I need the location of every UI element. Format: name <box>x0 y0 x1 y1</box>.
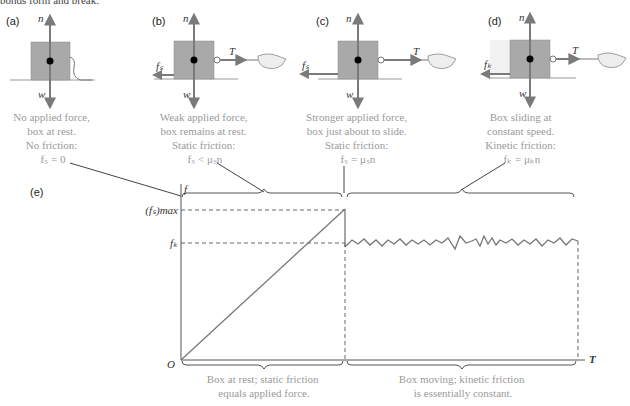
fk-tick-label: fₖ <box>170 237 178 249</box>
graph-e: (e) f T O (fₛ)max fₖ Box at re <box>30 163 597 399</box>
n-label: n <box>183 12 189 24</box>
hand-icon <box>598 53 626 68</box>
bottom-brace-static <box>182 361 343 369</box>
T-label: T <box>413 45 420 57</box>
bottom-brace-kinetic <box>347 361 576 369</box>
leader-a <box>70 163 181 196</box>
panel-d: (d) n w T fₖ Box sliding at constant spe… <box>482 11 626 165</box>
fs-label: fₛ <box>302 59 310 71</box>
n-label: n <box>38 12 44 24</box>
panel-b-label: (b) <box>152 15 165 27</box>
w-label: w <box>346 88 354 100</box>
T-label: T <box>229 45 236 57</box>
panel-b-caption: Weak applied force, box remains at rest.… <box>160 111 251 165</box>
panel-a: (a) n w No applied force, box at rest. N… <box>6 12 95 165</box>
panel-c-caption: Stronger applied force, box just about t… <box>306 111 410 165</box>
center-of-mass-dot <box>527 56 534 63</box>
top-brace-kinetic <box>347 189 574 197</box>
fs-max-label: (fₛ)max <box>145 204 178 217</box>
w-label: w <box>183 88 191 100</box>
center-of-mass-dot <box>191 57 198 64</box>
header-partial-text: bonds form and break. <box>0 0 99 6</box>
leader-b <box>217 163 264 192</box>
panel-a-caption: No applied force, box at rest. No fricti… <box>13 111 92 165</box>
hand-icon <box>428 54 456 69</box>
bottom-caption-kinetic: Box moving; kinetic friction is essentia… <box>399 373 527 399</box>
panel-c-label: (c) <box>316 15 329 27</box>
panel-c: (c) n w T fₛ Stronger applied force, box… <box>301 12 456 165</box>
friction-diagram: bonds form and break. (a) n w No applied… <box>0 0 630 406</box>
hook <box>214 57 220 63</box>
panel-d-label: (d) <box>488 15 501 27</box>
fs-label: fₛ <box>156 60 164 72</box>
static-friction-ramp <box>181 209 345 360</box>
w-label: w <box>38 88 46 100</box>
rope-slack <box>70 57 92 80</box>
n-label: n <box>519 11 525 23</box>
n-label: n <box>346 12 352 24</box>
kinetic-friction-curve <box>345 236 578 249</box>
center-of-mass-dot <box>47 58 54 65</box>
graph-label: (e) <box>30 186 43 198</box>
bottom-caption-static: Box at rest; static friction equals appl… <box>207 373 322 399</box>
w-label: w <box>519 87 527 99</box>
T-label: T <box>572 44 579 56</box>
panel-d-caption: Box sliding at constant speed. Kinetic f… <box>485 111 558 165</box>
panel-b: (b) n w T fₛ Weak applied force, box rem… <box>152 12 286 165</box>
center-of-mass-dot <box>355 57 362 64</box>
panel-a-label: (a) <box>6 15 19 27</box>
motion-blur <box>490 40 510 75</box>
hand-icon <box>258 54 286 69</box>
hook <box>378 57 384 63</box>
x-axis-label: T <box>589 353 597 365</box>
fk-label: fₖ <box>484 58 492 70</box>
leader-d <box>461 163 505 190</box>
origin-label: O <box>167 358 175 370</box>
hook <box>550 56 556 62</box>
